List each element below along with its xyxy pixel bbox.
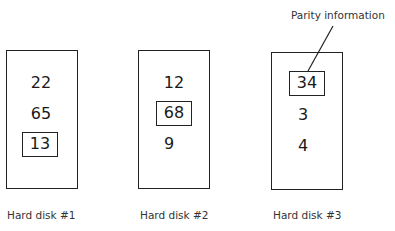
disk2-block-1: 12 — [156, 73, 192, 93]
disk3-block-2: 3 — [285, 105, 321, 125]
disk2-parity-block: 68 — [156, 101, 192, 126]
disk1-parity-block: 13 — [22, 132, 58, 157]
hard-disk-3-label: Hard disk #3 — [273, 209, 341, 221]
disk2-block-3: 9 — [151, 134, 187, 154]
disk3-parity-block: 34 — [289, 71, 325, 96]
raid-parity-diagram: Parity information 22 65 13 Hard disk #1… — [0, 0, 395, 231]
hard-disk-1-label: Hard disk #1 — [7, 209, 75, 221]
disk1-block-2: 65 — [23, 104, 59, 124]
disk3-block-3: 4 — [285, 136, 321, 156]
disk1-block-1: 22 — [23, 73, 59, 93]
hard-disk-2-label: Hard disk #2 — [140, 209, 208, 221]
parity-information-label: Parity information — [291, 9, 385, 21]
